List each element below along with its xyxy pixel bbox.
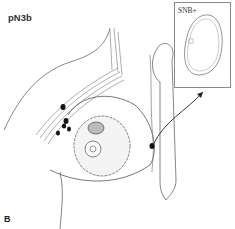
tumor bbox=[88, 122, 104, 134]
shoulder-outline bbox=[4, 28, 110, 130]
sternum bbox=[153, 43, 177, 200]
chest-wall-outline bbox=[60, 172, 62, 229]
sentinel-node-inset: SNB+ bbox=[174, 2, 231, 88]
internal-mammary-chain bbox=[150, 55, 153, 172]
stage-label: pN3b bbox=[8, 12, 32, 23]
lymph-node-icon bbox=[175, 3, 230, 87]
panel-letter: B bbox=[4, 214, 11, 224]
areola bbox=[85, 141, 101, 157]
